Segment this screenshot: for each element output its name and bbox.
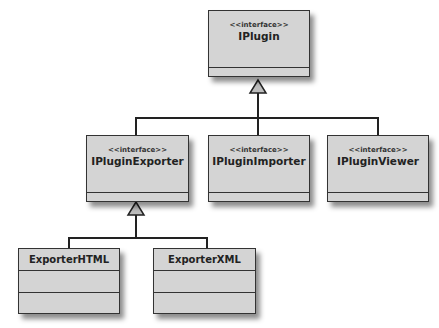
class-box-ipluginexporter: <<interface>> IPluginExporter (86, 135, 189, 202)
stereotype-label: <<interface>> (87, 146, 188, 155)
stereotype-label: <<interface>> (209, 21, 309, 30)
stereotype-label: <<interface>> (328, 146, 428, 155)
class-box-ipluginviewer: <<interface>> IPluginViewer (327, 135, 429, 202)
class-name: ExporterXML (168, 253, 241, 266)
class-name: ExporterHTML (29, 253, 109, 266)
class-box-exporterhtml: ExporterHTML (18, 248, 120, 314)
generalization-arrow-icon (250, 80, 266, 93)
stereotype-label: <<interface>> (209, 146, 309, 155)
class-name: IPluginViewer (328, 155, 428, 168)
attributes-section (154, 271, 255, 293)
class-box-iplugin: <<interface>> IPlugin (208, 10, 310, 77)
attributes-section (19, 271, 119, 293)
class-name: IPluginExporter (87, 155, 188, 168)
class-box-exporterxml: ExporterXML (153, 248, 256, 314)
class-box-ipluginimporter: <<interface>> IPluginImporter (208, 135, 310, 202)
class-name: IPluginImporter (209, 155, 309, 168)
generalization-arrow-icon (128, 202, 144, 215)
class-name: IPlugin (209, 30, 309, 43)
